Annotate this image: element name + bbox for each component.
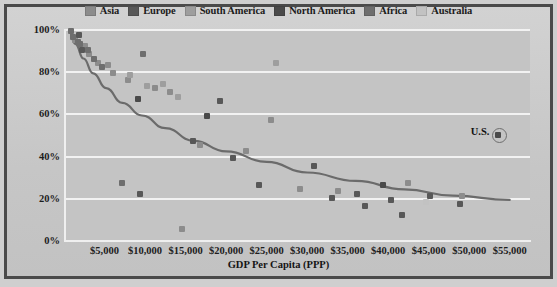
legend-item-europe[interactable]: Europe bbox=[128, 5, 175, 16]
chart-figure: AsiaEuropeSouth AmericaNorth AmericaAfri… bbox=[0, 0, 557, 287]
legend-swatch-icon bbox=[364, 6, 375, 16]
legend-swatch-icon bbox=[274, 6, 285, 16]
annotations-layer: U.S. bbox=[0, 0, 557, 287]
legend-label: North America bbox=[289, 5, 355, 16]
legend-label: South America bbox=[200, 5, 266, 16]
chart-legend: AsiaEuropeSouth AmericaNorth AmericaAfri… bbox=[0, 5, 557, 16]
legend-label: Australia bbox=[431, 5, 472, 16]
legend-swatch-icon bbox=[128, 6, 139, 16]
legend-swatch-icon bbox=[416, 6, 427, 16]
legend-swatch-icon bbox=[85, 6, 96, 16]
legend-item-north-america[interactable]: North America bbox=[274, 5, 355, 16]
annotation-label-us: U.S. bbox=[471, 125, 490, 136]
legend-item-asia[interactable]: Asia bbox=[85, 5, 119, 16]
legend-label: Africa bbox=[379, 5, 407, 16]
legend-swatch-icon bbox=[185, 6, 196, 16]
legend-item-south-america[interactable]: South America bbox=[185, 5, 266, 16]
legend-label: Europe bbox=[143, 5, 175, 16]
legend-label: Asia bbox=[100, 5, 119, 16]
legend-item-australia[interactable]: Australia bbox=[416, 5, 472, 16]
annotation-highlight-ring bbox=[492, 128, 507, 143]
legend-item-africa[interactable]: Africa bbox=[364, 5, 407, 16]
